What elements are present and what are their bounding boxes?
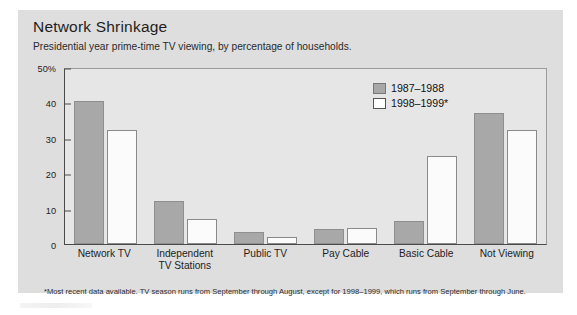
x-axis-label: Pay Cable	[306, 248, 387, 273]
x-axis-labels: Network TVIndependentTV StationsPublic T…	[64, 248, 547, 273]
bar-series1[interactable]	[314, 229, 344, 244]
legend-label: 1998–1999*	[391, 97, 448, 109]
x-axis-label: Public TV	[225, 248, 306, 273]
plot-area: 01020304050%	[64, 68, 547, 245]
bar-series1[interactable]	[394, 221, 424, 244]
chart-card: Network Shrinkage Presidential year prim…	[18, 10, 563, 293]
bar-series1[interactable]	[474, 113, 504, 244]
y-axis-tick-label: 40	[46, 99, 65, 109]
x-axis-label: Not Viewing	[467, 248, 548, 273]
y-axis-tick-label: 10	[46, 206, 65, 216]
chart-footnote: *Most recent data available. TV season r…	[44, 287, 526, 296]
bar-group	[466, 69, 546, 244]
chart-legend: 1987–19881998–1999*	[373, 82, 448, 112]
bar-series1[interactable]	[74, 101, 104, 244]
bar-group	[225, 69, 305, 244]
x-axis-label: IndependentTV Stations	[145, 248, 226, 273]
bar-series2[interactable]	[187, 219, 217, 244]
x-axis-label: Basic Cable	[386, 248, 467, 273]
bar-series2[interactable]	[347, 228, 377, 244]
bar-series2[interactable]	[507, 130, 537, 244]
bar-series2[interactable]	[427, 156, 457, 245]
legend-item[interactable]: 1987–1988	[373, 82, 448, 94]
scan-artifact	[20, 303, 92, 308]
x-axis-label: Network TV	[64, 248, 145, 273]
legend-label: 1987–1988	[391, 82, 444, 94]
page-title: Network Shrinkage	[33, 18, 167, 36]
y-axis-tick-label: 20	[46, 170, 65, 180]
bar-group	[65, 69, 145, 244]
bar-series2[interactable]	[267, 237, 297, 244]
bar-group	[145, 69, 225, 244]
bar-series2[interactable]	[107, 130, 137, 244]
y-axis-tick-label: 50%	[38, 64, 65, 74]
legend-item[interactable]: 1998–1999*	[373, 97, 448, 109]
y-axis-tick-label: 0	[51, 241, 65, 251]
legend-swatch-icon	[373, 83, 386, 94]
bar-series-container	[65, 69, 546, 244]
y-axis-tick-label: 30	[46, 135, 65, 145]
legend-swatch-icon	[373, 98, 386, 109]
bar-series1[interactable]	[234, 232, 264, 244]
chart-subtitle: Presidential year prime-time TV viewing,…	[33, 41, 352, 52]
bar-series1[interactable]	[154, 201, 184, 244]
